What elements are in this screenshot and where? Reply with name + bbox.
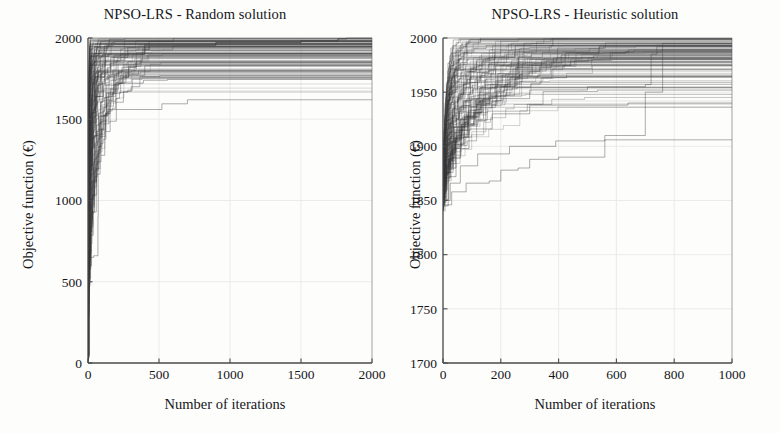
x-tick-label: 1000 bbox=[719, 367, 746, 382]
figure-page: NPSO-LRS - Random solution 0500100015002… bbox=[0, 0, 780, 433]
plot-area-heuristic: 0200400600800100017001750180018501900195… bbox=[390, 0, 780, 433]
y-tick-label: 2000 bbox=[55, 31, 82, 46]
x-tick-label: 2000 bbox=[359, 367, 386, 382]
plot-area-random: 05001000150020000500100015002000 bbox=[0, 0, 390, 433]
y-tick-label: 1000 bbox=[55, 193, 82, 208]
y-tick-label: 500 bbox=[62, 275, 83, 290]
y-axis-label-heuristic: Objective function (€) bbox=[407, 105, 424, 305]
x-tick-label: 800 bbox=[664, 367, 685, 382]
y-tick-label: 2000 bbox=[410, 31, 437, 46]
y-tick-label: 0 bbox=[75, 356, 82, 371]
x-axis-label-random: Number of iterations bbox=[60, 396, 390, 413]
x-tick-label: 1000 bbox=[217, 367, 244, 382]
x-tick-label: 600 bbox=[606, 367, 627, 382]
x-tick-label: 1500 bbox=[288, 367, 315, 382]
y-axis-label-random: Objective function (€) bbox=[20, 105, 37, 305]
y-tick-label: 1950 bbox=[410, 85, 437, 100]
y-tick-label: 1500 bbox=[55, 112, 82, 127]
x-tick-label: 0 bbox=[440, 367, 447, 382]
x-tick-label: 0 bbox=[85, 367, 92, 382]
x-tick-label: 400 bbox=[548, 367, 569, 382]
x-tick-label: 500 bbox=[149, 367, 170, 382]
x-axis-label-heuristic: Number of iterations bbox=[430, 396, 760, 413]
y-tick-label: 1700 bbox=[410, 356, 437, 371]
chart-panel-heuristic-solution: NPSO-LRS - Heuristic solution 0200400600… bbox=[390, 0, 780, 433]
chart-panel-random-solution: NPSO-LRS - Random solution 0500100015002… bbox=[0, 0, 390, 433]
x-tick-label: 200 bbox=[491, 367, 512, 382]
